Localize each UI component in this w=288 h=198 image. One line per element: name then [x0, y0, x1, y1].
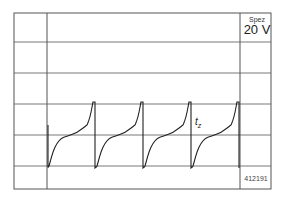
range-value: 20 V — [243, 22, 271, 37]
marker-tz: tz — [195, 116, 201, 129]
figure-id: 412191 — [241, 175, 271, 182]
